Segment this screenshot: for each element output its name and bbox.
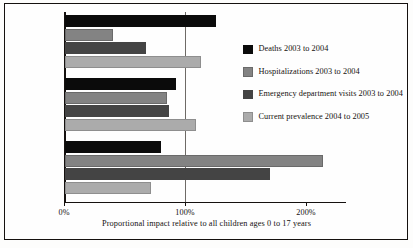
bar xyxy=(65,105,169,117)
bar xyxy=(65,78,176,90)
bar xyxy=(65,15,216,27)
bar xyxy=(65,29,113,41)
legend-label: Hospitalizations 2003 to 2004 xyxy=(259,67,360,77)
legend-item: Current prevalence 2004 to 2005 xyxy=(243,112,403,122)
chart-legend: Deaths 2003 to 2004Hospitalizations 2003… xyxy=(243,44,403,134)
legend-swatch-icon xyxy=(243,67,253,77)
x-tick-label: 100% xyxy=(175,208,195,217)
bar xyxy=(65,56,201,68)
x-tick-label: 0% xyxy=(58,208,69,217)
legend-item: Emergency department visits 2003 to 2004 xyxy=(243,89,403,99)
x-axis-line xyxy=(64,202,346,203)
x-tick-mark xyxy=(64,202,65,206)
legend-label: Deaths 2003 to 2004 xyxy=(259,44,329,54)
bar xyxy=(65,155,323,167)
bar xyxy=(65,42,146,54)
legend-swatch-icon xyxy=(243,45,253,55)
x-tick-mark xyxy=(306,202,307,206)
x-axis-title: Proportional impact relative to all chil… xyxy=(0,219,413,228)
bar xyxy=(65,119,196,131)
legend-label: Current prevalence 2004 to 2005 xyxy=(259,112,370,122)
legend-label: Emergency department visits 2003 to 2004 xyxy=(259,89,403,99)
legend-item: Hospitalizations 2003 to 2004 xyxy=(243,67,403,77)
x-tick-label: 200% xyxy=(296,208,316,217)
bar xyxy=(65,168,270,180)
legend-swatch-icon xyxy=(243,112,253,122)
legend-item: Deaths 2003 to 2004 xyxy=(243,44,403,54)
chart-figure: 0%100%200%11 to 17 years5 to 10 years0 t… xyxy=(0,0,413,248)
bar xyxy=(65,182,151,194)
bar xyxy=(65,141,161,153)
bar xyxy=(65,92,167,104)
legend-swatch-icon xyxy=(243,90,253,100)
x-tick-mark xyxy=(185,202,186,206)
